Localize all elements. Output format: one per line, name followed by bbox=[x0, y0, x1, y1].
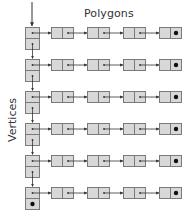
null-pointer-dot bbox=[30, 202, 34, 206]
node-cell-data bbox=[52, 124, 63, 135]
node-cell-data bbox=[88, 92, 99, 103]
node-cell-data bbox=[124, 188, 135, 199]
node-cell-data bbox=[52, 92, 63, 103]
null-pointer-dot bbox=[174, 63, 178, 67]
node-cell-data bbox=[160, 28, 171, 39]
node-cell-data bbox=[88, 156, 99, 167]
node-cell-data bbox=[88, 188, 99, 199]
node-cell-data bbox=[160, 156, 171, 167]
node-cell-data bbox=[52, 188, 63, 199]
null-pointer-dot bbox=[174, 95, 178, 99]
node-cell-data bbox=[124, 60, 135, 71]
null-pointer-dot bbox=[174, 31, 178, 35]
node-cell-data bbox=[124, 28, 135, 39]
node-cell-data bbox=[160, 60, 171, 71]
null-pointer-dot bbox=[174, 191, 178, 195]
node-cell-data bbox=[88, 124, 99, 135]
linked-list-diagram bbox=[0, 0, 189, 221]
node-cell-data bbox=[160, 124, 171, 135]
node-cell-data bbox=[124, 156, 135, 167]
null-pointer-dot bbox=[174, 159, 178, 163]
node-cell-data bbox=[124, 92, 135, 103]
node-cell-data bbox=[52, 28, 63, 39]
node-cell-data bbox=[52, 156, 63, 167]
node-cell-data bbox=[88, 60, 99, 71]
node-cell-data bbox=[160, 188, 171, 199]
node-cell-data bbox=[88, 28, 99, 39]
node-cell-data bbox=[124, 124, 135, 135]
node-cell-data bbox=[52, 60, 63, 71]
null-pointer-dot bbox=[174, 127, 178, 131]
node-cell-data bbox=[160, 92, 171, 103]
